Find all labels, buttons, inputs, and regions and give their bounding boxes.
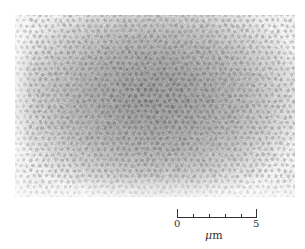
scale-bar-start-label: 0 — [174, 219, 180, 229]
scale-bar-end-label: 5 — [253, 219, 259, 229]
micrograph-image — [15, 15, 295, 197]
scale-bar-line — [177, 217, 257, 218]
scale-bar-tick-1 — [193, 214, 194, 218]
dot-array-texture — [15, 15, 295, 197]
scale-bar-tick-0 — [177, 209, 178, 218]
scale-bar: 0 5 μm — [177, 200, 261, 245]
scale-bar-tick-5 — [256, 209, 257, 218]
scale-bar-tick-4 — [241, 214, 242, 218]
scale-bar-tick-3 — [225, 214, 226, 218]
scale-bar-unit: μm — [205, 229, 223, 242]
scale-bar-tick-2 — [209, 214, 210, 218]
unit-meter-symbol: m — [212, 229, 222, 242]
